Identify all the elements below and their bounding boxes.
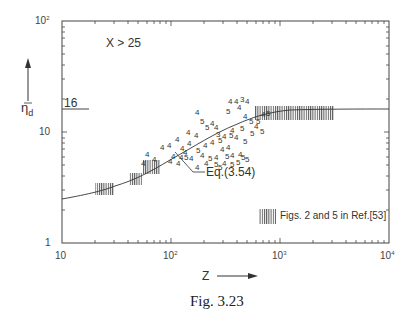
y-tick-10: 10 bbox=[39, 126, 50, 137]
y-axis-label: ηd bbox=[21, 100, 33, 118]
legend-text: Figs. 2 and 5 in Ref.[53] bbox=[280, 210, 386, 221]
eq-label: Eq.(3.54) bbox=[206, 165, 255, 179]
y-tick-1: 1 bbox=[45, 237, 51, 248]
x-tick-10000: 104 bbox=[380, 250, 394, 261]
y-tick-100: 102 bbox=[35, 15, 49, 26]
x-tick-100: 102 bbox=[163, 250, 177, 261]
figure-caption: Fig. 3.23 bbox=[190, 293, 244, 310]
annotation-x-gt-25: X > 25 bbox=[106, 36, 141, 50]
reference-value-label: 16 bbox=[64, 96, 77, 110]
x-axis-label: Z bbox=[202, 269, 209, 283]
x-tick-10: 10 bbox=[55, 250, 66, 261]
x-tick-1000: 103 bbox=[272, 250, 286, 261]
